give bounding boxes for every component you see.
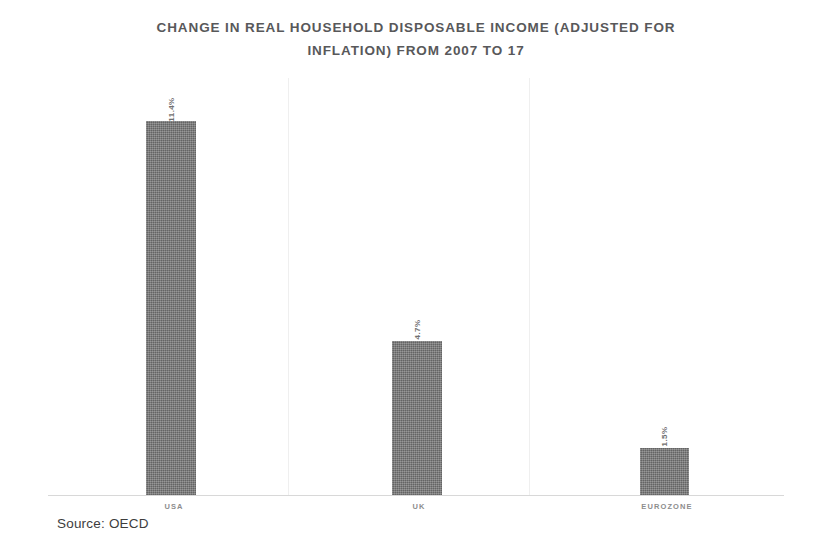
category-separator-line-1 [288, 78, 289, 496]
plot-area: 11.4% 4.7% 1.5% [48, 78, 784, 496]
bar-value-usa: 11.4% [167, 95, 176, 125]
bar-value-eurozone: 1.5% [660, 422, 669, 452]
chart-title: CHANGE IN REAL HOUSEHOLD DISPOSABLE INCO… [100, 16, 732, 62]
bar-uk[interactable] [392, 341, 442, 496]
category-separator-line-2 [529, 78, 530, 496]
bar-chart: CHANGE IN REAL HOUSEHOLD DISPOSABLE INCO… [0, 0, 832, 545]
category-label-usa: USA [126, 502, 222, 511]
category-label-eurozone: EUROZONE [617, 502, 717, 511]
category-label-uk: UK [371, 502, 467, 511]
bar-eurozone[interactable] [640, 448, 689, 496]
source-caption: Source: OECD [57, 516, 149, 531]
x-axis-line [48, 495, 784, 496]
bar-usa[interactable] [146, 121, 196, 496]
bar-value-uk: 4.7% [413, 315, 422, 345]
